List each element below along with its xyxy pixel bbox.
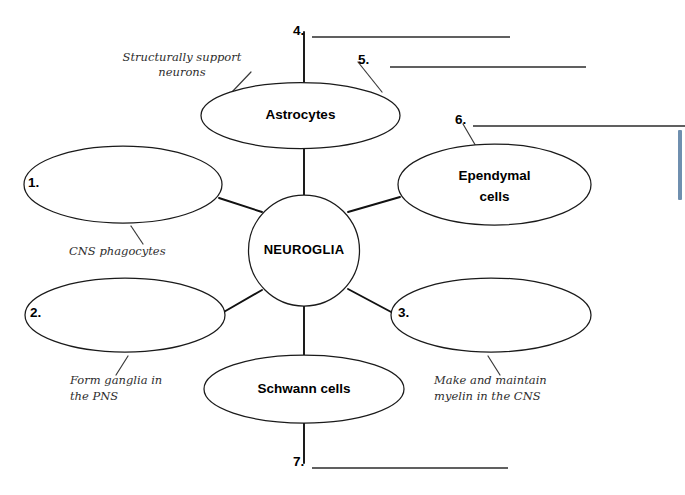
hint-node-2-line1: Form ganglia in [69, 373, 162, 387]
node-3-number: 3. [398, 305, 409, 320]
hint-node-3-line1: Make and maintain [433, 373, 547, 387]
hint-node-3-line2: myelin in the CNS [434, 389, 541, 403]
node-ependymal-cells[interactable] [398, 144, 591, 225]
hint-node-2-line2: the PNS [70, 389, 118, 403]
connector-center-to-node3 [348, 289, 393, 313]
neuroglia-concept-map: Astrocytes Ependymal cells NEUROGLIA Sch… [0, 0, 685, 495]
hint-astrocytes-line1: Structurally support [123, 50, 242, 64]
node-ependymal-label-line1: Ependymal [458, 168, 530, 183]
node-blank-1[interactable] [24, 146, 222, 223]
node-2-number: 2. [30, 305, 41, 320]
blank-7-number: 7. [293, 454, 304, 469]
scroll-position-marker[interactable] [678, 130, 682, 200]
worksheet-canvas: Astrocytes Ependymal cells NEUROGLIA Sch… [0, 0, 685, 495]
leader-hint-node1 [131, 226, 143, 244]
connector-center-to-node2 [222, 290, 262, 313]
connector-center-to-node1 [219, 198, 262, 212]
blank-5-number: 5. [358, 52, 369, 67]
hint-node-1: CNS phagocytes [69, 244, 166, 258]
blank-4-number: 4. [293, 23, 304, 38]
node-blank-2[interactable] [25, 278, 225, 352]
node-1-number: 1. [28, 175, 39, 190]
node-blank-3[interactable] [391, 278, 591, 352]
connector-center-to-ependymal [348, 197, 400, 212]
hint-astrocytes-line2: neurons [158, 65, 205, 79]
node-schwann-label: Schwann cells [257, 381, 350, 396]
node-neuroglia-label: NEUROGLIA [264, 242, 345, 257]
blank-6-number: 6. [455, 112, 466, 127]
node-astrocytes-label: Astrocytes [266, 107, 336, 122]
node-ependymal-label-line2: cells [479, 189, 509, 204]
